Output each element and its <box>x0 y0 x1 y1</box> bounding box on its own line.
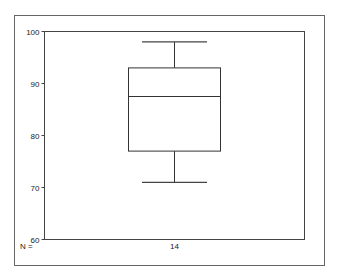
iqr-box <box>129 68 221 151</box>
box-group <box>129 42 221 182</box>
n-label: N = <box>20 242 33 251</box>
y-tick-label: 90 <box>31 80 40 89</box>
box-series <box>129 42 221 182</box>
y-axis: 60708090100 <box>26 28 44 245</box>
y-tick-label: 70 <box>31 184 40 193</box>
y-tick-label: 100 <box>26 28 40 37</box>
y-tick-label: 80 <box>31 132 40 141</box>
n-value: 14 <box>170 242 179 251</box>
boxplot-chart: 60708090100 14N = <box>0 0 337 278</box>
n-row: 14N = <box>20 242 179 251</box>
